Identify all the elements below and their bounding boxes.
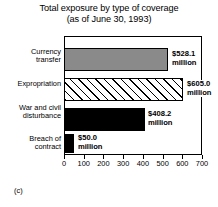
value-unit: million <box>172 59 196 68</box>
value-label-expropriation: $605.0 million <box>186 80 211 97</box>
x-axis-tick-label: 400 <box>132 160 154 168</box>
category-axis: Currency transfer Expropriation War and … <box>0 36 61 155</box>
category-label-line: Expropriation <box>17 79 61 88</box>
figure-container: Total exposure by type of coverage (as o… <box>0 0 218 207</box>
bar-expropriation[interactable] <box>64 78 183 101</box>
value-unit: million <box>78 143 102 152</box>
category-label-currency-transfer: Currency transfer <box>0 48 61 65</box>
bar-war-and-civil-disturbance[interactable] <box>64 108 145 131</box>
value-label-war-and-civil-disturbance: $408.2 million <box>147 110 172 127</box>
bar-row: $50.0 million <box>64 134 202 153</box>
value-unit: million <box>187 89 211 98</box>
x-axis-tick-label: 700 <box>191 160 213 168</box>
bar-row: $605.0 million <box>64 78 202 101</box>
category-label-line: transfer <box>36 55 61 64</box>
figure-caption: (c) <box>14 186 23 195</box>
bar-breach-of-contract[interactable] <box>64 134 74 153</box>
value-label-breach-of-contract: $50.0 million <box>77 134 102 151</box>
chart-title: Total exposure by type of coverage (as o… <box>0 3 218 25</box>
x-axis-tick-label: 200 <box>92 160 114 168</box>
x-axis-tick-label: 0 <box>53 160 75 168</box>
x-axis-tick-label: 500 <box>152 160 174 168</box>
category-label-line: contract <box>35 142 61 151</box>
chart-title-line-1: Total exposure by type of coverage <box>0 3 218 14</box>
x-axis-tick-label: 300 <box>112 160 134 168</box>
x-axis-line <box>64 154 202 155</box>
x-axis-tick-label: 600 <box>171 160 193 168</box>
bar-currency-transfer[interactable] <box>64 48 168 71</box>
value-label-currency-transfer: $528.1 million <box>171 50 196 67</box>
value-unit: million <box>148 119 172 128</box>
category-label-expropriation: Expropriation <box>0 80 61 88</box>
category-label-line: disturbance <box>23 111 61 120</box>
category-label-war-and-civil-disturbance: War and civil disturbance <box>0 104 61 121</box>
bar-row: $408.2 million <box>64 108 202 131</box>
chart-title-line-2: (as of June 30, 1993) <box>0 14 218 25</box>
category-label-breach-of-contract: Breach of contract <box>0 135 61 152</box>
bar-row: $528.1 million <box>64 48 202 71</box>
x-axis-tick-label: 100 <box>73 160 95 168</box>
